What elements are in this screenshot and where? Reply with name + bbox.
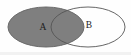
- set-b-label: B: [86, 20, 92, 30]
- set-a-label: A: [40, 22, 47, 32]
- venn-diagram-figure: A B: [0, 0, 131, 55]
- venn-diagram-canvas: A B: [0, 0, 131, 55]
